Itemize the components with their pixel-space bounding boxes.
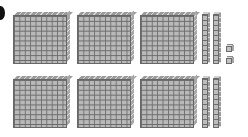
hundred-flat bbox=[13, 76, 71, 128]
unit-cube bbox=[226, 44, 234, 52]
ten-rod bbox=[202, 12, 211, 64]
hundred-flat bbox=[77, 76, 135, 128]
hundred-flat bbox=[140, 76, 198, 128]
hundred-flat bbox=[140, 12, 198, 64]
hundred-flat bbox=[77, 12, 135, 64]
partial-label-mark bbox=[0, 6, 5, 20]
ten-rod bbox=[202, 76, 211, 128]
ten-rod bbox=[213, 12, 222, 64]
hundred-flat bbox=[13, 12, 71, 64]
ten-rod bbox=[213, 76, 222, 128]
unit-cube bbox=[226, 56, 234, 64]
